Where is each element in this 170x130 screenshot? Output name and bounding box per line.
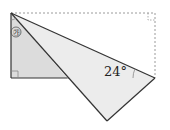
right-angle-mark-top-right — [148, 13, 155, 20]
unknown-angle-marker: ㉮ — [13, 29, 20, 37]
given-angle-label: 24° — [104, 64, 127, 79]
folded-rectangle-diagram: ㉮ 24° — [0, 0, 170, 130]
